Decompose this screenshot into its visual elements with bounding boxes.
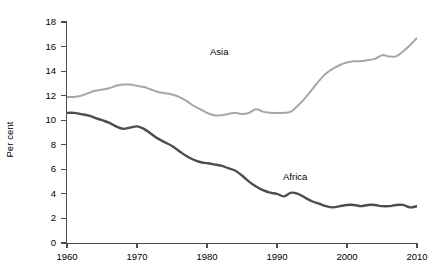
y-tick-mark [61, 95, 66, 96]
x-tick-mark [346, 243, 347, 248]
y-tick-mark [61, 71, 66, 72]
y-tick-mark [61, 193, 66, 194]
y-tick-label: 14 [16, 66, 56, 76]
x-tick-label: 1970 [114, 252, 160, 262]
y-tick-mark [61, 46, 66, 47]
y-tick-label: 12 [16, 91, 56, 101]
series-line-asia [67, 38, 417, 116]
x-tick-label: 1980 [184, 252, 230, 262]
y-tick-label: 16 [16, 42, 56, 52]
y-tick-label: 0 [16, 238, 56, 248]
y-tick-mark [61, 218, 66, 219]
plot-area [67, 22, 417, 243]
y-tick-mark [61, 120, 66, 121]
y-tick-label: 8 [16, 140, 56, 150]
chart-container: Per cent 024681012141618 196019701980199… [0, 0, 439, 279]
series-label-africa: Africa [283, 171, 307, 182]
y-tick-mark [61, 169, 66, 170]
y-tick-label: 10 [16, 115, 56, 125]
y-tick-label: 4 [16, 189, 56, 199]
y-tick-label: 6 [16, 164, 56, 174]
series-label-asia: Asia [210, 46, 228, 57]
y-tick-mark [61, 242, 66, 243]
y-tick-label: 2 [16, 213, 56, 223]
y-axis-title: Per cent [2, 0, 16, 279]
x-tick-mark [206, 243, 207, 248]
y-tick-mark [61, 144, 66, 145]
x-tick-label: 2010 [394, 252, 439, 262]
x-tick-label: 1960 [44, 252, 90, 262]
x-tick-label: 1990 [254, 252, 300, 262]
series-lines [67, 22, 417, 243]
x-tick-mark [416, 243, 417, 248]
series-line-africa [67, 113, 417, 208]
y-tick-mark [61, 21, 66, 22]
x-tick-mark [66, 243, 67, 248]
y-tick-label: 18 [16, 17, 56, 27]
x-tick-mark [136, 243, 137, 248]
x-tick-mark [276, 243, 277, 248]
x-tick-label: 2000 [324, 252, 370, 262]
